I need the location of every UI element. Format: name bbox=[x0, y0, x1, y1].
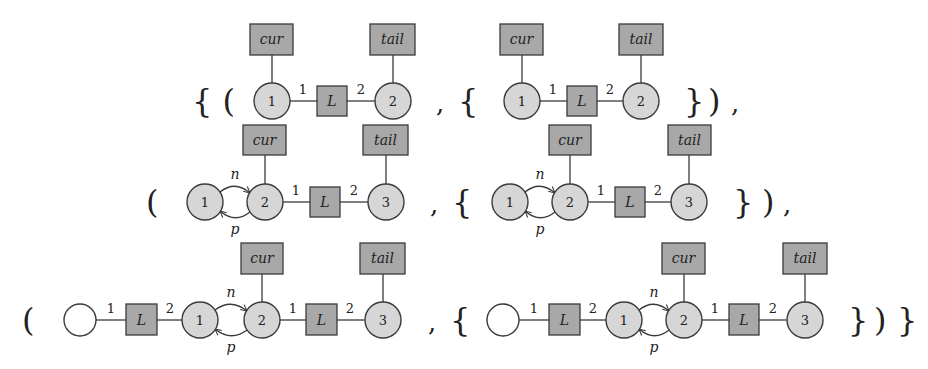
delim-row1-open: { ( bbox=[192, 82, 235, 120]
tail-label: tail bbox=[794, 250, 817, 266]
delim-row2-paren-open: ( bbox=[146, 183, 158, 221]
graph-row1-left: cur tail 1 L 2 1 2 bbox=[250, 24, 415, 119]
tentacle-label: 2 bbox=[166, 301, 174, 316]
edge-p-label: p bbox=[650, 339, 659, 355]
tail-label: tail bbox=[371, 250, 394, 266]
hyperedge-L-label: L bbox=[136, 312, 146, 328]
graph-row2-right: n p cur tail 1 2 L 3 1 2 bbox=[492, 125, 711, 237]
delim-row1-comma1: , bbox=[436, 88, 444, 118]
delim-row1-paren-close: ) bbox=[708, 82, 720, 120]
hyperedge-L-label: L bbox=[738, 312, 748, 328]
delim-row3-brace-close: } bbox=[848, 301, 868, 339]
edge-p-label: p bbox=[231, 221, 240, 237]
hyperedge-L-label: L bbox=[576, 93, 586, 109]
edge-n bbox=[215, 304, 247, 311]
node-2-label: 2 bbox=[680, 313, 688, 328]
row-3: ( n p cur tail L 1 2 L bbox=[22, 243, 917, 355]
node-2-label: 2 bbox=[566, 195, 574, 210]
edge-n-label: n bbox=[649, 284, 658, 300]
tentacle-label: 1 bbox=[711, 301, 719, 316]
tentacle-label: 1 bbox=[530, 301, 538, 316]
tentacle-label: 2 bbox=[606, 82, 614, 97]
cur-label: cur bbox=[260, 31, 285, 47]
cur-label: cur bbox=[253, 132, 278, 148]
tentacle-label: 1 bbox=[549, 82, 557, 97]
node-1-label: 1 bbox=[506, 195, 514, 210]
hyperedge-L-label: L bbox=[624, 194, 634, 210]
edge-p bbox=[215, 329, 247, 336]
graph-row1-right: cur tail 1 L 2 1 2 bbox=[500, 24, 663, 119]
node-2-label: 2 bbox=[389, 94, 397, 109]
edge-n-label: n bbox=[230, 166, 239, 182]
tentacle-label: 2 bbox=[346, 301, 354, 316]
delim-row2-brace-open: { bbox=[452, 183, 472, 221]
node-1-label: 1 bbox=[268, 94, 276, 109]
node-3-label: 3 bbox=[801, 313, 809, 328]
tentacle-label: 2 bbox=[350, 183, 358, 198]
edge-p bbox=[220, 211, 250, 218]
node-3-label: 3 bbox=[685, 195, 693, 210]
edge-p-label: p bbox=[536, 221, 545, 237]
tentacle-label: 1 bbox=[107, 301, 115, 316]
node-anonymous bbox=[487, 304, 519, 336]
row-2: ( n p cur tail 1 2 L 3 1 2 , { bbox=[146, 125, 791, 237]
tentacle-label: 2 bbox=[357, 82, 365, 97]
delim-row2-comma1: , bbox=[430, 189, 438, 219]
node-3-label: 3 bbox=[379, 313, 387, 328]
hyperedge-L-label: L bbox=[316, 312, 326, 328]
graph-row2-left: n p cur tail 1 2 L 3 1 2 bbox=[187, 125, 408, 237]
node-2-label: 2 bbox=[637, 94, 645, 109]
node-3-label: 3 bbox=[382, 195, 390, 210]
tentacle-label: 1 bbox=[289, 301, 297, 316]
tentacle-label: 1 bbox=[597, 183, 605, 198]
cur-label: cur bbox=[558, 132, 583, 148]
delim-row3-paren-open: ( bbox=[22, 301, 34, 339]
node-anonymous bbox=[64, 304, 96, 336]
edge-p bbox=[525, 211, 555, 218]
delim-row1-comma2: , bbox=[731, 88, 739, 118]
delim-row1-brace-close: } bbox=[684, 82, 704, 120]
cur-label: cur bbox=[672, 250, 697, 266]
tail-label: tail bbox=[374, 132, 397, 148]
cur-label: cur bbox=[250, 250, 275, 266]
tentacle-label: 1 bbox=[299, 82, 307, 97]
tentacle-label: 2 bbox=[654, 183, 662, 198]
edge-p bbox=[639, 329, 669, 336]
tentacle-label: 2 bbox=[589, 301, 597, 316]
delim-row3-paren-close: ) bbox=[874, 301, 886, 339]
edge-n bbox=[525, 186, 555, 193]
node-2-label: 2 bbox=[261, 195, 269, 210]
delim-row1-brace-open: { bbox=[458, 82, 478, 120]
delim-row3-comma1: , bbox=[428, 307, 436, 337]
hyperedge-L-label: L bbox=[559, 312, 569, 328]
edge-n bbox=[220, 186, 250, 193]
edge-p-label: p bbox=[227, 339, 236, 355]
node-1-label: 1 bbox=[620, 313, 628, 328]
hypergraph-diagram: { ( cur tail 1 L 2 1 2 , { bbox=[0, 0, 928, 369]
node-1-label: 1 bbox=[201, 195, 209, 210]
delim-row2-comma2: , bbox=[783, 189, 791, 219]
delim-row3-outer-close: } bbox=[897, 301, 917, 339]
graph-row3-left: n p cur tail L 1 2 L 3 1 2 1 2 bbox=[64, 243, 405, 355]
edge-n-label: n bbox=[226, 284, 235, 300]
delim-row3-brace-open: { bbox=[450, 301, 470, 339]
node-2-label: 2 bbox=[258, 313, 266, 328]
tail-label: tail bbox=[678, 132, 701, 148]
edge-n-label: n bbox=[535, 166, 544, 182]
tail-label: tail bbox=[630, 31, 653, 47]
tentacle-label: 2 bbox=[769, 301, 777, 316]
cur-label: cur bbox=[510, 31, 535, 47]
hyperedge-L-label: L bbox=[319, 194, 329, 210]
tentacle-label: 1 bbox=[292, 183, 300, 198]
node-1-label: 1 bbox=[518, 94, 526, 109]
hyperedge-L-label: L bbox=[326, 93, 336, 109]
row-1: { ( cur tail 1 L 2 1 2 , { bbox=[192, 24, 739, 120]
tail-label: tail bbox=[381, 31, 404, 47]
node-1-label: 1 bbox=[196, 313, 204, 328]
edge-n bbox=[639, 304, 669, 311]
delim-row2-brace-close: } bbox=[733, 183, 753, 221]
graph-row3-right: n p cur tail L 1 2 L 3 1 2 1 2 bbox=[487, 243, 827, 355]
delim-row2-paren-close: ) bbox=[762, 183, 774, 221]
